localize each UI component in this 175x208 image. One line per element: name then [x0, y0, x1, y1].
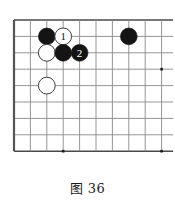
go-board[interactable]: 12 — [0, 0, 175, 175]
black-stone-a[interactable] — [38, 28, 55, 45]
black-stone-move-2[interactable]: 2 — [71, 44, 88, 61]
black-stone-disc — [38, 28, 55, 45]
black-stone-d[interactable] — [120, 28, 137, 45]
white-stone-b[interactable] — [38, 44, 55, 61]
board-background — [0, 0, 175, 175]
black-stone-c[interactable] — [55, 44, 72, 61]
figure-caption: 图 36 — [0, 181, 175, 196]
go-figure: 12 图 36 — [0, 0, 175, 208]
star-point-bottom-right — [160, 150, 163, 153]
white-stone-move-1[interactable]: 1 — [55, 28, 72, 45]
white-stone-disc — [38, 44, 55, 61]
stone-move-number: 2 — [77, 47, 83, 59]
black-stone-disc — [120, 28, 137, 45]
go-board-canvas[interactable]: 12 — [0, 0, 175, 175]
star-point-right — [160, 68, 163, 71]
stone-move-number: 1 — [60, 30, 66, 42]
black-stone-disc — [55, 44, 72, 61]
white-stone-e[interactable] — [38, 77, 55, 94]
star-point-bottom-left — [62, 150, 65, 153]
white-stone-disc — [38, 77, 55, 94]
